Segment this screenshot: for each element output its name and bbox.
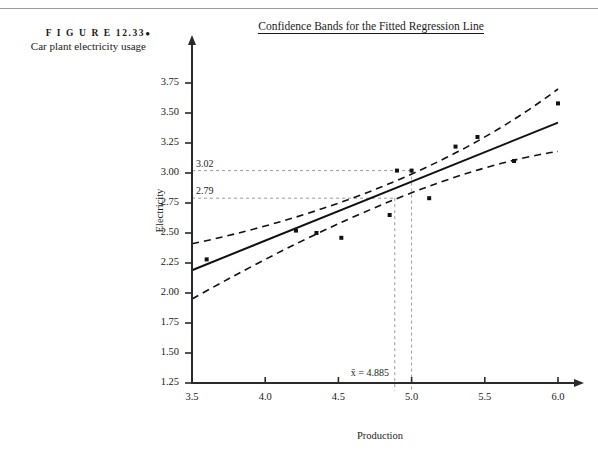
scatter-plot-figure (0, 0, 598, 465)
y-axis-tick-label: 3.00 (139, 166, 179, 177)
data-point (339, 236, 343, 240)
lower-confidence-band (192, 151, 558, 299)
y-axis-tick-label: 1.25 (139, 376, 179, 387)
data-point (556, 101, 560, 105)
data-point (395, 169, 399, 173)
y-axis-tick-label: 2.00 (139, 286, 179, 297)
y-axis-tick-label: 3.25 (139, 136, 179, 147)
fitted-regression-line (192, 123, 558, 271)
data-point (205, 257, 209, 261)
x-axis-tick-label: 5.0 (392, 391, 432, 402)
y-axis-title: Electricity (154, 171, 165, 251)
y-axis-arrow-icon (188, 35, 196, 45)
x-axis-tick-label: 3.5 (172, 391, 212, 402)
upper-confidence-band (192, 89, 558, 244)
data-point (512, 159, 516, 163)
y-axis-tick-label: 3.75 (139, 76, 179, 87)
annotation-lower-bound-value: 2.79 (196, 185, 214, 196)
y-axis-tick-label: 2.75 (139, 196, 179, 207)
data-point (454, 145, 458, 149)
data-point (410, 169, 414, 173)
y-axis-tick-label: 2.25 (139, 256, 179, 267)
plot-svg-canvas (0, 0, 598, 465)
y-axis-tick-label: 1.50 (139, 346, 179, 357)
annotation-xbar-mean: x̄ = 4.885 (351, 367, 389, 378)
data-point (314, 231, 318, 235)
x-axis-title: Production (335, 430, 425, 441)
y-axis-tick-label: 3.50 (139, 106, 179, 117)
data-point (388, 213, 392, 217)
y-axis-tick-label: 2.50 (139, 226, 179, 237)
x-axis-tick-label: 5.5 (465, 391, 505, 402)
x-axis-arrow-icon (574, 379, 584, 387)
y-axis-tick-label: 1.75 (139, 316, 179, 327)
data-point (294, 229, 298, 233)
x-axis-tick-label: 4.0 (245, 391, 285, 402)
annotation-upper-bound-value: 3.02 (196, 158, 214, 169)
x-axis-tick-label: 6.0 (538, 391, 578, 402)
data-point (475, 135, 479, 139)
x-axis-tick-label: 4.5 (318, 391, 358, 402)
data-point (427, 196, 431, 200)
